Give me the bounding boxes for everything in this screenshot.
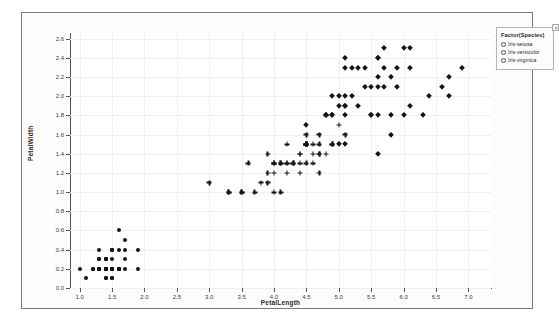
data-point [284,161,289,166]
x-axis-tick [274,288,275,292]
y-axis-tick [66,154,70,155]
gridline-horizontal [70,58,491,59]
x-axis-tick [112,288,113,292]
y-axis-tick-label: 0.4 [56,247,64,253]
data-point [104,257,108,261]
legend-item[interactable]: Iris-setosa [501,41,550,47]
y-axis-tick [66,192,70,193]
data-point [459,65,465,71]
plot-area: 1.01.52.02.53.03.54.04.55.05.56.06.57.00… [70,33,491,288]
data-point [317,142,322,147]
data-point [284,142,289,147]
gridline-horizontal [70,39,491,40]
y-axis-tick-label: 0.8 [56,208,64,214]
x-axis-tick-label: 7.0 [464,294,472,300]
data-point [310,142,315,147]
y-axis-tick-label: 1.6 [56,132,64,138]
x-axis-tick-label: 2.5 [173,294,181,300]
gridline-horizontal [70,192,491,193]
y-axis-tick-label: 0.0 [56,285,64,291]
gridline-horizontal [70,77,491,78]
x-axis-tick-label: 4.0 [270,294,278,300]
data-point [394,84,400,90]
gridline-horizontal [70,115,491,116]
data-point [291,161,296,166]
legend-box[interactable]: Factor(Species) Iris-setosaIris-versicol… [496,27,554,70]
data-point [362,84,368,90]
gridline-horizontal [70,96,491,97]
data-point [355,65,361,71]
data-point [342,65,348,71]
data-point [394,65,400,71]
x-axis-tick [306,288,307,292]
plot-panel[interactable]: 1.01.52.02.53.03.54.04.55.05.56.06.57.00… [70,33,491,288]
y-axis-tick [66,115,70,116]
y-axis-tick [66,135,70,136]
data-point [97,257,101,261]
data-point [259,180,264,185]
x-axis-tick [404,288,405,292]
y-axis-tick [66,39,70,40]
y-axis-tick-label: 2.4 [56,55,64,61]
x-axis-tick [339,288,340,292]
gridline-horizontal [70,211,491,212]
x-axis-tick [436,288,437,292]
x-axis-tick-label: 5.5 [367,294,375,300]
x-axis-tick [80,288,81,292]
data-point [84,276,88,280]
data-point [381,84,387,90]
x-axis-tick-label: 2.0 [140,294,148,300]
y-axis-title: PetalWidth [27,125,34,161]
data-point [342,141,348,147]
legend-item-label: Iris-setosa [508,41,532,47]
gridline-horizontal [70,173,491,174]
y-axis-tick-label: 2.0 [56,93,64,99]
data-point [362,65,368,71]
data-point [375,84,381,90]
data-point [407,45,413,51]
data-point [291,161,296,166]
legend-options-icon[interactable] [552,24,559,31]
data-point [278,161,283,166]
legend-item[interactable]: Iris-versicolor [501,49,550,55]
gridline-horizontal [70,135,491,136]
y-axis-tick [66,58,70,59]
y-axis-tick [66,173,70,174]
y-axis-tick-label: 1.4 [56,151,64,157]
data-point [297,161,302,166]
data-point [330,142,335,147]
data-point [342,103,348,109]
gridline-horizontal [70,154,491,155]
y-axis-tick [66,77,70,78]
x-axis-tick-label: 5.0 [335,294,343,300]
data-point [349,65,355,71]
x-axis-tick-label: 1.5 [108,294,116,300]
legend-item[interactable]: Iris-virginica [501,57,550,63]
legend-item-label: Iris-versicolor [508,49,540,55]
data-point [104,276,108,280]
y-axis-tick [66,211,70,212]
x-axis-tick [177,288,178,292]
x-axis-tick [371,288,372,292]
data-point [246,161,251,166]
y-axis-tick [66,96,70,97]
data-point [123,257,127,261]
data-point [284,161,289,166]
x-axis-tick-label: 3.0 [205,294,213,300]
data-point [104,276,108,280]
gridline-horizontal [70,250,491,251]
data-point [104,257,108,261]
y-axis-tick-label: 1.8 [56,112,64,118]
x-axis-tick-label: 1.0 [76,294,84,300]
gridline-horizontal [70,288,491,289]
y-axis-tick-label: 1.0 [56,189,64,195]
y-axis-tick-label: 0.2 [56,266,64,272]
y-axis-tick [66,250,70,251]
x-axis-tick [144,288,145,292]
data-point [381,45,387,51]
x-axis-tick [209,288,210,292]
x-axis-tick-label: 3.5 [237,294,245,300]
x-axis-tick-label: 4.5 [302,294,310,300]
data-point [97,257,101,261]
